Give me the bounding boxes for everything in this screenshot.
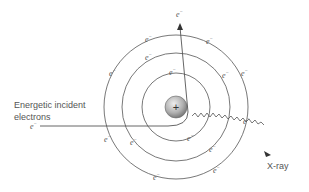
svg-text:e−: e− xyxy=(169,67,176,77)
xray-label: X-ray xyxy=(267,161,289,171)
svg-text:e−: e− xyxy=(243,116,250,126)
svg-text:e−: e− xyxy=(241,68,248,78)
incident-label-line1: Energetic incident xyxy=(14,100,86,110)
svg-text:e−: e− xyxy=(130,137,137,147)
xray-arrow-icon xyxy=(264,151,271,157)
incident-electron-label: e− xyxy=(30,121,37,131)
atom-diagram: + Energetic incident electrons e− e− X-r… xyxy=(0,0,309,192)
ejected-electron-label: e− xyxy=(176,9,183,19)
svg-text:e−: e− xyxy=(145,52,152,62)
nucleus-plus-icon: + xyxy=(173,101,179,113)
svg-text:e−: e− xyxy=(104,134,111,144)
svg-text:e−: e− xyxy=(187,133,194,143)
svg-text:e−: e− xyxy=(145,34,152,44)
svg-text:e−: e− xyxy=(222,70,229,80)
xray-wave xyxy=(192,113,264,125)
incident-label-line2: electrons xyxy=(14,112,51,122)
svg-text:e−: e− xyxy=(209,144,216,154)
svg-text:e−: e− xyxy=(109,68,116,78)
nucleus: + xyxy=(165,96,187,118)
svg-text:e−: e− xyxy=(213,165,220,175)
ejected-arrow-icon xyxy=(177,23,183,30)
